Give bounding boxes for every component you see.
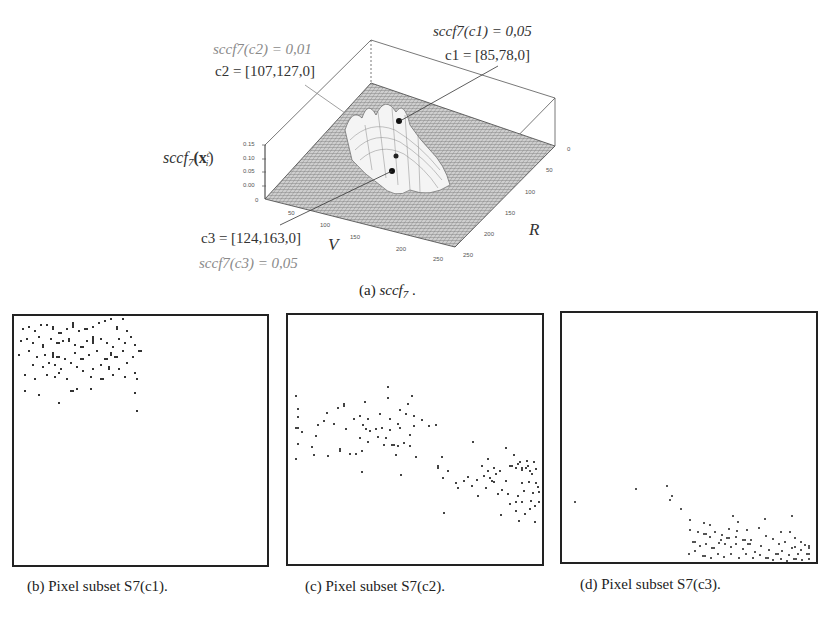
point-c2 — [394, 154, 399, 159]
c2-value-annotation: sccf7(c2) = 0,01 — [213, 40, 312, 58]
z-axis-label: sccf7(xci) — [163, 145, 214, 172]
r-tick: 0 — [567, 146, 570, 152]
r-tick: 50 — [546, 167, 553, 173]
caption-c: (c) Pixel subset S7(c2). — [305, 578, 445, 595]
r-tick: 250 — [463, 252, 473, 258]
c2-coord-annotation: c2 = [107,127,0] — [215, 62, 315, 80]
scatter-b — [14, 316, 267, 565]
r-tick: 100 — [525, 189, 535, 195]
v-tick: 150 — [350, 234, 360, 240]
z-tick: 0.05 — [243, 168, 255, 174]
c1-coord-annotation: c1 = [85,78,0] — [445, 46, 530, 64]
v-axis-label: V — [328, 235, 338, 255]
pixel-subset-panel-d — [560, 311, 818, 564]
v-tick: 50 — [288, 210, 295, 216]
r-tick: 150 — [505, 210, 515, 216]
c3-value-annotation: sccf7(c3) = 0,05 — [199, 254, 298, 272]
c3-coord-annotation: c3 = [124,163,0] — [201, 229, 301, 247]
surface-plot-graphic — [0, 0, 833, 305]
v-tick: 250 — [433, 256, 443, 262]
caption-b: (b) Pixel subset S7(c1). — [27, 578, 168, 595]
z-tick: 0.00 — [243, 182, 255, 188]
scatter-d — [562, 313, 816, 562]
r-tick: 200 — [484, 231, 494, 237]
v-tick: 100 — [320, 222, 330, 228]
pixel-subset-panel-c — [286, 313, 544, 566]
v-tick: 200 — [396, 246, 406, 252]
scatter-c — [288, 315, 542, 564]
caption-a: (a) sccf7 . — [359, 282, 416, 300]
z-tick: 0.15 — [243, 141, 255, 147]
pixel-subset-panel-b — [12, 314, 269, 567]
r-axis-label: R — [529, 220, 539, 240]
v-tick: 0 — [255, 197, 258, 203]
surface-plot-a: 0.15 0.10 0.05 0.00 0 50 100 150 200 250… — [0, 0, 833, 305]
z-tick: 0.10 — [243, 155, 255, 161]
c1-value-annotation: sccf7(c1) = 0,05 — [433, 22, 532, 40]
caption-d: (d) Pixel subset S7(c3). — [580, 576, 721, 593]
point-c1 — [396, 118, 402, 124]
